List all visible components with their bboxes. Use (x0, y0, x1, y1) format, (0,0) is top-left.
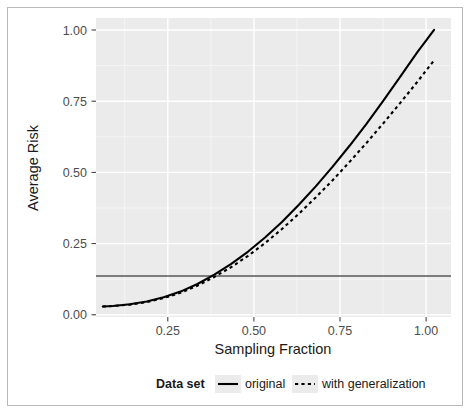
x-tick-label: 1.00 (414, 324, 438, 338)
x-tick-label: 0.25 (156, 324, 180, 338)
legend-item-original[interactable]: original (215, 375, 285, 393)
legend-title: Data set (156, 377, 205, 391)
y-tick-label: 1.00 (63, 24, 87, 38)
y-tick-label: 0.00 (63, 308, 87, 322)
x-axis-tick-labels: 0.25 0.50 0.75 1.00 (156, 324, 439, 338)
y-tick-label: 0.50 (63, 166, 87, 180)
x-axis-title: Sampling Fraction (215, 341, 332, 357)
y-axis-tick-labels: 0.00 0.25 0.50 0.75 1.00 (63, 24, 87, 323)
legend-item-with-generalization[interactable]: with generalization (292, 375, 426, 393)
x-tick-label: 0.75 (328, 324, 352, 338)
y-tick-label: 0.25 (63, 237, 87, 251)
x-axis-ticks (168, 317, 426, 322)
x-tick-label: 0.50 (242, 324, 266, 338)
legend-label-original: original (245, 377, 285, 391)
legend: Data set original with generalization (156, 375, 426, 393)
chart-svg: 0.00 0.25 0.50 0.75 1.00 0.25 0.50 0.75 … (8, 8, 462, 405)
y-tick-label: 0.75 (63, 95, 87, 109)
y-axis-title: Average Risk (25, 124, 41, 211)
y-axis-ticks (92, 30, 97, 315)
plot-panel-background (96, 18, 451, 317)
legend-label-with-generalization: with generalization (321, 377, 426, 391)
figure-container: 0.00 0.25 0.50 0.75 1.00 0.25 0.50 0.75 … (7, 7, 463, 406)
